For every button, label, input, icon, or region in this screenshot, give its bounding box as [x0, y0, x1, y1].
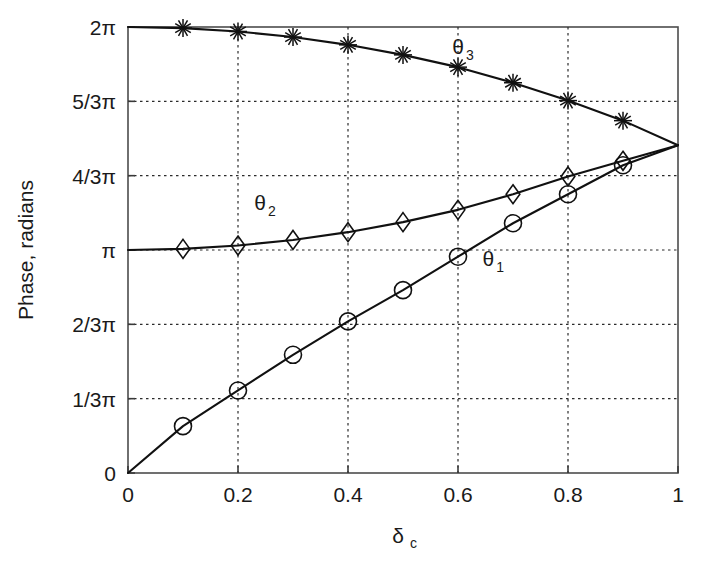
x-tick-label: 0 — [122, 483, 134, 506]
y-tick-label: 4/3π — [72, 165, 116, 188]
x-axis-title-subscript: c — [410, 535, 417, 551]
y-tick-label: 1/3π — [72, 388, 116, 411]
x-axis-title-base: δ — [392, 524, 404, 547]
phase-vs-delta-c-chart: Phase, radians δ c 01/3π2/3ππ4/3π5/3π2π … — [0, 0, 711, 562]
annotation-label-base: θ — [482, 247, 494, 270]
y-tick-label: 5/3π — [72, 90, 116, 113]
y-tick-label: 2π — [90, 16, 116, 39]
annotation-label-base: θ — [452, 35, 464, 58]
annotation-label-subscript: 2 — [268, 203, 276, 219]
annotation-label-subscript: 3 — [466, 47, 474, 63]
y-tick-label: 0 — [104, 462, 116, 485]
x-tick-label: 0.8 — [553, 483, 582, 506]
x-tick-label: 0.6 — [443, 483, 472, 506]
y-axis-title: Phase, radians — [14, 180, 37, 320]
y-tick-label: 2/3π — [72, 313, 116, 336]
x-tick-label: 1 — [672, 483, 684, 506]
annotation-label-subscript: 1 — [496, 259, 504, 275]
x-tick-label: 0.4 — [333, 483, 363, 506]
annotation-label-base: θ — [254, 191, 266, 214]
x-tick-label: 0.2 — [223, 483, 252, 506]
y-tick-label: π — [102, 239, 117, 262]
